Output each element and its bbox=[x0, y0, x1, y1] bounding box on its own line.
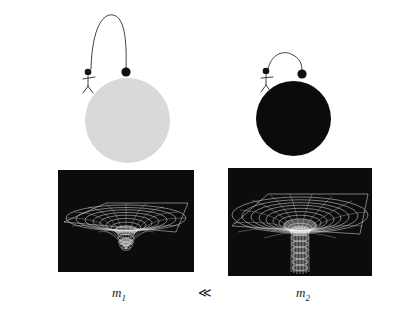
mass-subscript: 1 bbox=[121, 293, 126, 303]
thrown-ball-icon bbox=[297, 69, 306, 78]
physics-figure: m1 ≪ m2 bbox=[0, 0, 412, 314]
mass-label-m1: m1 bbox=[112, 285, 126, 303]
stick-figure-body-icon bbox=[83, 76, 95, 93]
trajectory-arc-tall bbox=[91, 15, 126, 69]
stick-figure-head-icon bbox=[263, 68, 270, 75]
small-mass-scene bbox=[0, 0, 206, 170]
stick-figure-body-icon bbox=[261, 75, 273, 92]
relation-symbol: ≪ bbox=[198, 285, 212, 301]
spacetime-curvature-shallow bbox=[58, 170, 194, 272]
thrown-ball-icon bbox=[121, 67, 130, 76]
small-mass-trajectory-layer bbox=[0, 0, 206, 170]
stick-figure-head-icon bbox=[85, 69, 92, 76]
curvature-mesh-deep bbox=[228, 168, 372, 276]
large-mass-trajectory-layer bbox=[206, 0, 412, 170]
mass-label-m2: m2 bbox=[296, 285, 310, 303]
mass-subscript: 2 bbox=[305, 293, 310, 303]
mass-symbol: m bbox=[112, 285, 121, 300]
trajectory-arc-short bbox=[268, 53, 302, 70]
curvature-mesh-shallow bbox=[58, 170, 194, 272]
spacetime-curvature-deep bbox=[228, 168, 372, 276]
large-mass-scene bbox=[206, 0, 412, 170]
mass-symbol: m bbox=[296, 285, 305, 300]
